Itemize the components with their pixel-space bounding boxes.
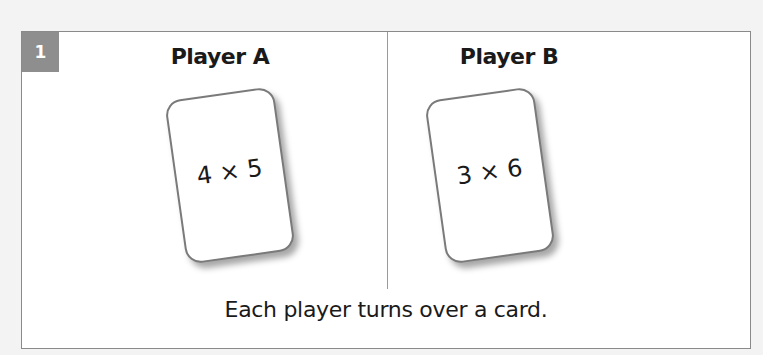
step-panel: 1 Player A 4 × 5 Player B 3 × 6 Each pla… [21, 31, 751, 349]
player-b-title: Player B [409, 44, 609, 69]
step-caption: Each player turns over a card. [22, 297, 750, 322]
player-b-card-text: 3 × 6 [455, 153, 524, 190]
step-number-badge: 1 [22, 32, 59, 72]
column-divider [387, 32, 388, 289]
player-a-card: 4 × 5 [164, 86, 296, 265]
player-b-card: 3 × 6 [424, 86, 556, 265]
player-a-card-text: 4 × 5 [195, 153, 264, 190]
player-a-title: Player A [120, 44, 320, 69]
